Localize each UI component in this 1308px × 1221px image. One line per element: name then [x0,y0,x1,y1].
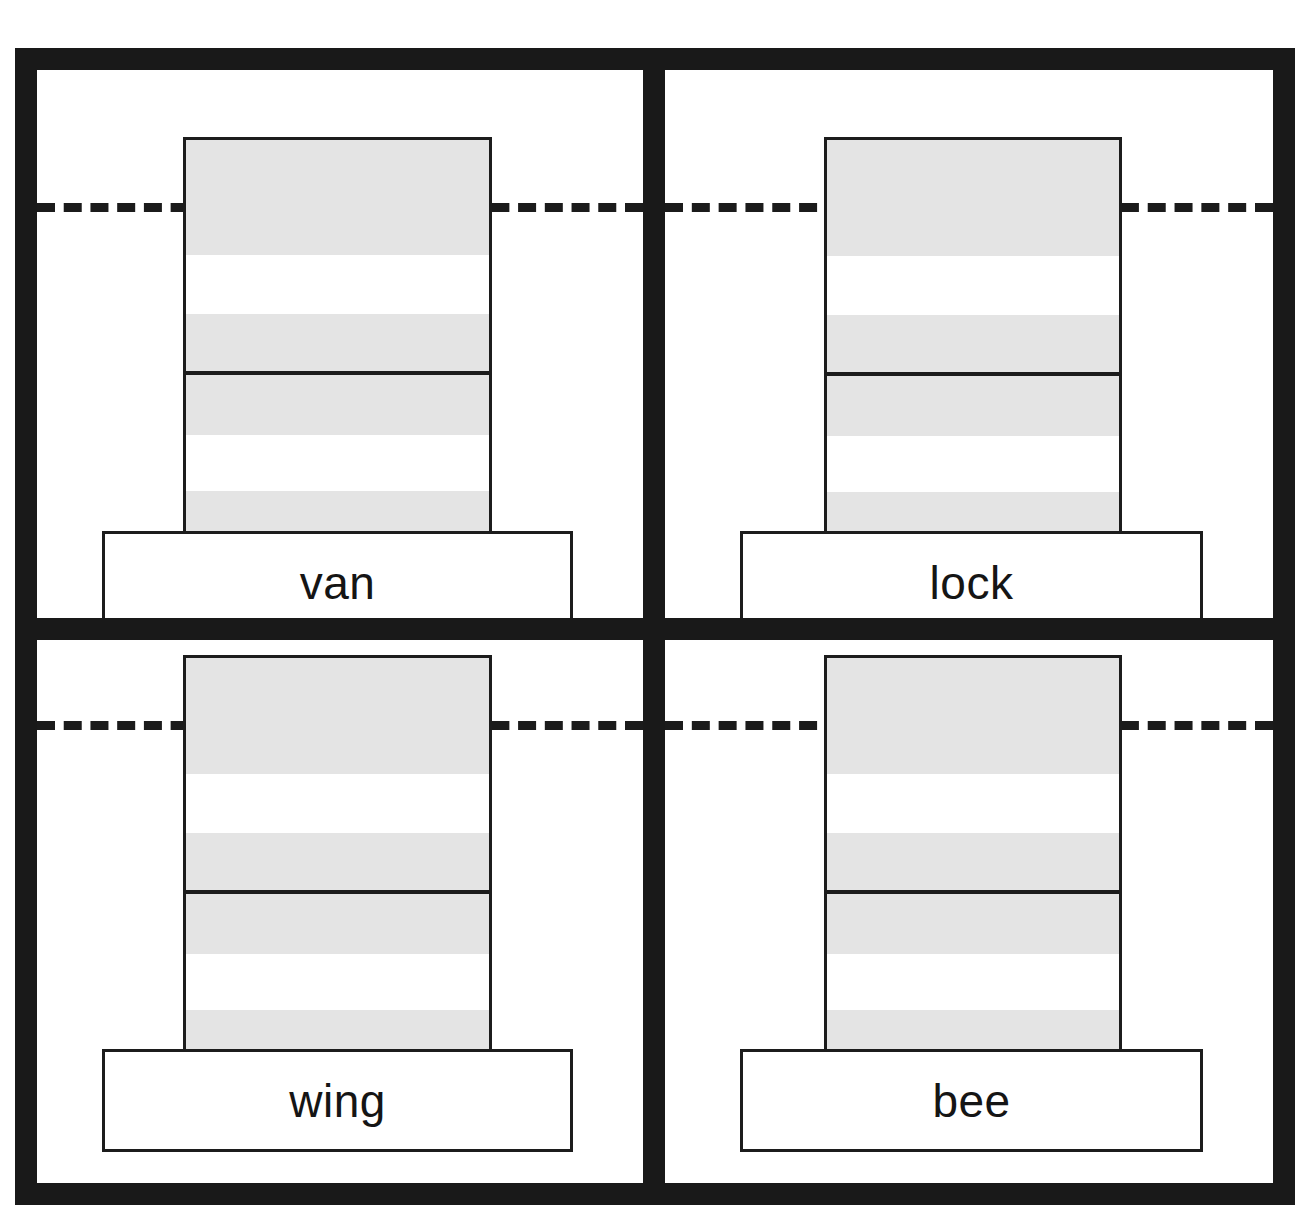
bar-band [827,894,1119,954]
figure-canvas: van lock wing [0,0,1308,1221]
panel-label-lock: lock [930,560,1014,606]
bar-band [827,658,1119,774]
panel-label-bee: bee [932,1078,1010,1124]
bar-band [186,658,489,774]
bar-band [186,894,489,954]
bar-band [827,315,1119,372]
bar-band [186,375,489,435]
panel-label-van: van [300,560,376,606]
panel-label-plate-wing[interactable]: wing [102,1049,573,1152]
panel-wing[interactable]: wing [37,640,643,1183]
panel-bee[interactable]: bee [665,640,1273,1183]
frame-vertical-divider [643,48,665,1205]
bar-band [186,833,489,890]
bar-band [827,833,1119,890]
bar-band [186,140,489,255]
panel-label-plate-bee[interactable]: bee [740,1049,1203,1152]
bar-band [186,314,489,371]
panel-van[interactable]: van [37,70,643,618]
bar-band [827,376,1119,436]
panel-label-plate-lock[interactable]: lock [740,531,1203,618]
panel-label-wing: wing [289,1078,386,1124]
panel-lock[interactable]: lock [665,70,1273,618]
bar-band [827,140,1119,256]
panel-label-plate-van[interactable]: van [102,531,573,618]
